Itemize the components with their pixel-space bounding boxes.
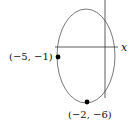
point-left-vertex [56, 55, 61, 60]
x-axis-label: x [121, 41, 128, 54]
ellipse-curve [57, 9, 115, 103]
diagram-canvas: x (−5, −1) (−2, −6) [0, 0, 134, 125]
point-label-bottom: (−2, −6) [68, 109, 112, 120]
point-label-left: (−5, −1) [9, 51, 53, 62]
point-bottom-vertex [85, 100, 90, 105]
